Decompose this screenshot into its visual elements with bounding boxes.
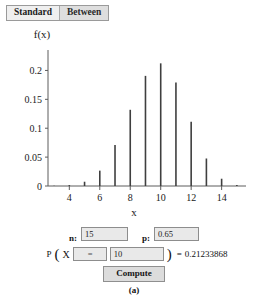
- p-input[interactable]: 0.65: [154, 227, 199, 241]
- close-paren: ): [167, 248, 172, 261]
- x-axis-label: x: [131, 206, 137, 218]
- x-tick-label: 14: [217, 192, 227, 203]
- equals-sign: =: [177, 249, 182, 259]
- n-label: n:: [69, 233, 77, 243]
- parameters-row: n: 15 p: 0.65: [0, 228, 268, 243]
- compute-button[interactable]: Compute: [103, 266, 165, 282]
- parameter-controls: n: 15 p: 0.65 P ( X = 10 ) = 0.21233868 …: [0, 228, 268, 282]
- probability-function-label: P: [46, 249, 51, 259]
- random-variable-label: X: [62, 249, 69, 260]
- probability-result: 0.21233868: [185, 249, 228, 259]
- n-input[interactable]: 15: [81, 227, 128, 241]
- tab-between[interactable]: Between: [60, 6, 108, 20]
- tab-standard[interactable]: Standard: [7, 6, 60, 20]
- compute-row: Compute: [0, 266, 268, 282]
- comparison-operator-select[interactable]: =: [73, 247, 107, 261]
- x-tick-label: 4: [67, 192, 72, 203]
- y-tick-label: 0.2: [30, 65, 43, 76]
- n-row: n: 15: [69, 227, 128, 245]
- figure-caption: (a): [0, 285, 268, 295]
- y-tick-label: 0.15: [25, 94, 43, 105]
- chart-canvas: f(x)00.050.10.150.2468101214x: [0, 24, 268, 222]
- y-tick-label: 0.1: [30, 123, 43, 134]
- p-row: p: 0.65: [142, 227, 199, 245]
- y-tick-label: 0.05: [25, 152, 43, 163]
- open-paren: (: [54, 248, 59, 261]
- view-mode-tabs: Standard Between: [6, 5, 109, 21]
- distribution-chart: f(x)00.050.10.150.2468101214x: [0, 24, 268, 222]
- x-tick-label: 10: [156, 192, 166, 203]
- y-tick-label: 0: [37, 181, 42, 192]
- p-label: p:: [142, 233, 150, 243]
- x-tick-label: 12: [186, 192, 196, 203]
- k-input[interactable]: 10: [110, 247, 164, 261]
- x-tick-label: 8: [128, 192, 133, 203]
- x-tick-label: 6: [97, 192, 102, 203]
- y-axis-label: f(x): [34, 28, 51, 41]
- probability-expression-row: P ( X = 10 ) = 0.21233868: [0, 246, 268, 262]
